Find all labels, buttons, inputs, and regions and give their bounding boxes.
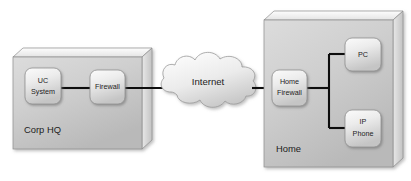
node-home-firewall-label-line2: Firewall <box>277 88 302 97</box>
node-uc-system-label-line1: UC <box>38 76 48 85</box>
node-pc-label: PC <box>358 50 368 59</box>
corp-hq-panel-side <box>142 48 152 149</box>
home-panel-top <box>264 11 403 20</box>
node-home-firewall-label-line1: Home <box>280 77 299 86</box>
corp-hq-panel-top <box>13 48 152 57</box>
node-ip-phone-label-line1: IP <box>360 117 367 126</box>
node-uc-system-label-line2: System <box>31 87 55 96</box>
node-corp-firewall-label: Firewall <box>95 82 120 91</box>
home-zone-label: Home <box>276 143 301 154</box>
corp-hq-zone-label: Corp HQ <box>24 124 61 135</box>
internet-cloud-label: Internet <box>192 76 225 87</box>
network-diagram-canvas: UC System Firewall Corp HQ Internet Home… <box>0 0 411 181</box>
home-panel-side <box>393 11 403 167</box>
diagram-svg: UC System Firewall Corp HQ Internet Home… <box>0 0 411 181</box>
node-ip-phone-label-line2: Phone <box>353 129 374 138</box>
